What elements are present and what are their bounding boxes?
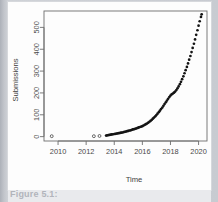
- x-tick-label: 2016: [134, 147, 150, 156]
- x-tick-label: 2010: [50, 147, 66, 156]
- data-point: [186, 66, 189, 69]
- y-tick-label: 400: [32, 43, 41, 55]
- chart-svg: 0100200300400500201020122014201620182020…: [8, 2, 211, 190]
- data-point: [187, 62, 190, 65]
- y-tick-label: 0: [32, 135, 41, 139]
- y-tick-label: 100: [32, 109, 41, 121]
- data-point: [196, 29, 199, 32]
- data-point: [195, 33, 198, 36]
- data-point: [50, 135, 53, 138]
- data-point: [200, 16, 203, 19]
- data-point: [98, 135, 101, 138]
- data-point: [190, 51, 193, 54]
- data-point: [184, 69, 187, 72]
- data-points-layer: [50, 13, 203, 138]
- x-tick-label: 2020: [190, 147, 206, 156]
- x-tick-label: 2014: [106, 147, 122, 156]
- x-tick-label: 2012: [78, 147, 94, 156]
- data-point: [181, 78, 184, 81]
- data-point: [194, 38, 197, 41]
- data-point: [182, 75, 185, 78]
- data-point: [188, 58, 191, 61]
- data-point: [193, 42, 196, 45]
- data-point: [198, 20, 201, 23]
- data-point: [92, 135, 95, 138]
- data-point: [183, 72, 186, 75]
- figure-panel: 0100200300400500201020122014201620182020…: [8, 2, 211, 190]
- y-tick-label: 200: [32, 87, 41, 99]
- caption-strip: Figure 5.1:: [8, 190, 211, 202]
- data-point: [200, 13, 203, 16]
- x-axis-title: Time: [126, 175, 143, 184]
- y-axis-title: Submissions: [11, 58, 20, 101]
- data-point: [191, 47, 194, 50]
- figure-page: 0100200300400500201020122014201620182020…: [0, 0, 218, 202]
- data-point: [197, 24, 200, 27]
- x-tick-label: 2018: [162, 147, 178, 156]
- submissions-over-time-chart: 0100200300400500201020122014201620182020…: [8, 2, 211, 190]
- data-point: [179, 83, 182, 86]
- data-point: [180, 80, 183, 83]
- y-tick-label: 300: [32, 65, 41, 77]
- figure-caption: Figure 5.1:: [10, 190, 58, 199]
- y-tick-label: 500: [32, 21, 41, 33]
- data-point: [189, 55, 192, 58]
